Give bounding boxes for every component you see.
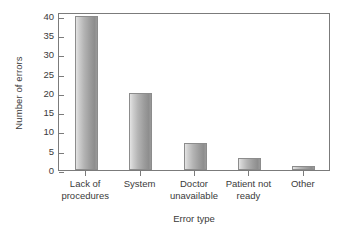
x-axis-tick-label: Doctor unavailable: [170, 178, 218, 201]
x-axis-tick-labels: Lack of proceduresSystemDoctor unavailab…: [58, 178, 330, 210]
y-axis-tick-labels: 0510152025303540: [30, 13, 54, 171]
x-axis-tick-label: Lack of procedures: [61, 178, 109, 201]
bar: [292, 166, 315, 170]
y-axis-tick-label: 40: [32, 12, 54, 22]
y-axis-tick-label: 0: [32, 166, 54, 176]
y-axis-tick-label: 35: [32, 31, 54, 41]
y-axis-tick-label: 25: [32, 70, 54, 80]
x-axis-tick-mark: [248, 171, 249, 176]
x-axis-tick-label: System: [124, 178, 156, 190]
y-axis-tick-label: 15: [32, 108, 54, 118]
bar: [238, 158, 261, 170]
x-axis-tick-marks: [58, 171, 330, 177]
x-axis-tick-mark: [194, 171, 195, 176]
bar: [75, 16, 98, 170]
x-axis-tick-label: Other: [291, 178, 315, 190]
x-axis-tick-mark: [85, 171, 86, 176]
x-axis-tick-mark: [303, 171, 304, 176]
y-axis-tick-label: 30: [32, 51, 54, 61]
bars-layer: [59, 14, 329, 170]
bar-chart: Number of errors 0510152025303540 Lack o…: [0, 0, 346, 243]
plot-area: [58, 13, 330, 171]
y-axis-tick-label: 10: [32, 128, 54, 138]
x-axis-tick-label: Patient not ready: [226, 178, 271, 201]
y-axis-tick-label: 20: [32, 89, 54, 99]
x-axis-title: Error type: [58, 213, 330, 224]
bar: [184, 143, 207, 170]
y-axis-tick-label: 5: [32, 147, 54, 157]
y-axis-title: Number of errors: [12, 8, 26, 178]
bar: [129, 93, 152, 170]
x-axis-tick-mark: [140, 171, 141, 176]
